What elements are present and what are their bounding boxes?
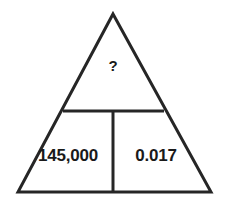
top-cell-label: ? bbox=[0, 58, 226, 73]
triangle-diagram bbox=[0, 0, 226, 205]
formula-triangle-figure: ? 145,000 0.017 bbox=[0, 0, 226, 205]
bottom-right-cell-label: 0.017 bbox=[118, 147, 194, 164]
bottom-left-cell-label: 145,000 bbox=[27, 147, 109, 164]
